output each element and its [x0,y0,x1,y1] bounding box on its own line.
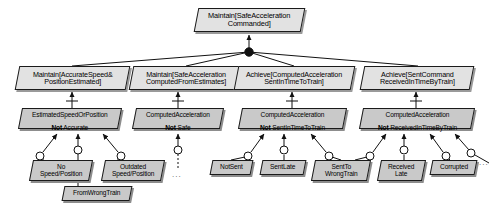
goal-node-command-received-in-time[interactable]: Achieve[SentCommand ReceivedInTimeByTrai… [360,66,475,90]
goal-node-safe-acceleration-computed[interactable]: Maintain[SafeAcceleration ComputedFromEs… [129,66,245,90]
refine-node-e2-o4 [467,149,475,157]
ellipsis-right: ... [479,158,489,167]
refine-link-l1-o1 [43,134,57,152]
obstacle-node-1-label: EstimatedSpeedOrPosition Not Accurate [32,105,108,132]
obstacle-node-3-label: ComputedAcceleration Not SentInTimeToTra… [260,105,325,132]
obstacle-node-4-line1: ComputedAcceleration [385,111,449,118]
goal-node-root[interactable]: Maintain[SafeAcceleration Commanded] [194,8,306,32]
goal-node-accurate-speed-position[interactable]: Maintain[AccurateSpeed& PositionEstimate… [15,66,131,90]
obstacle-node-4-label: ComputedAcceleration Not ReceivedInTimeB… [378,105,457,132]
obstacle-node-3-neg: Not [260,124,271,131]
refine-node-l6-o4 [366,152,374,160]
goal-node-root-label: Maintain[SafeAcceleration Commanded] [208,12,290,27]
link-and-to-goal-1 [72,52,249,66]
refine-link-l8-o4 [430,134,443,152]
goal-node-3-label: Achieve[ComputedAcceleration SentInTimeT… [246,71,342,86]
leaf-node-sent-to-wrong-train[interactable]: SentTo WrongTrain [311,160,371,181]
leaf-node-sent-late[interactable]: SentLate [260,160,307,175]
goal-node-2-label: Maintain[SafeAcceleration ComputedFromEs… [146,71,226,86]
refine-node-l1-o1 [36,152,44,160]
leaf-node-8-label: Corrupted [440,164,468,171]
leaf-node-from-wrong-train[interactable]: FromWrongTrain [62,186,133,201]
obstacle-node-3-rest: SentInTimeToTrain [271,124,325,131]
refine-node-l2-o1 [74,146,82,154]
refine-link-l4-o3 [251,134,264,152]
diagram-canvas: Maintain[SafeAcceleration Commanded] Mai… [0,0,495,218]
leaf-node-4-label: NotSent [220,164,243,171]
refine-link-e2-o4 [455,134,469,150]
obstacle-node-2-label: ComputedAcceleration Not Safe [146,105,210,132]
obstacle-node-estimate-not-accurate[interactable]: EstimatedSpeedOrPosition Not Accurate [18,108,122,129]
refine-node-e1-o2 [174,146,182,154]
obstacle-node-1-rest: Accurate [62,124,88,131]
refine-link-l6-o4 [373,134,386,152]
and-refinement-node [245,48,253,56]
obstacle-node-4-neg: Not [378,124,389,131]
leaf-node-no-speed-position[interactable]: No Speed/Position [29,160,93,181]
obstacle-node-3-line1: ComputedAcceleration [261,111,325,118]
obstacle-node-2-rest: Safe [176,124,191,131]
obstacle-node-1-neg: Not [52,124,63,131]
obstacle-node-acceleration-not-safe[interactable]: ComputedAcceleration Not Safe [132,108,224,129]
obstacle-node-2-line1: ComputedAcceleration [146,111,210,118]
leaf-node-not-sent[interactable]: NotSent [210,160,254,175]
leaf-node-5-label: SentLate [270,164,295,171]
leaf-node-2-label: FromWrongTrain [73,190,120,197]
goal-node-acceleration-sent-in-time[interactable]: Achieve[ComputedAcceleration SentInTimeT… [234,66,356,90]
refine-node-l8-o4 [442,152,450,160]
obstacle-node-1-line1: EstimatedSpeedOrPosition [32,111,108,118]
goal-node-4-label: Achieve[SentCommand ReceivedInTimeByTrai… [380,71,455,86]
refine-link-l3-o1 [103,134,118,152]
obstacle-node-not-received-in-time[interactable]: ComputedAcceleration Not ReceivedInTimeB… [359,108,475,129]
refine-node-l3-o1 [117,152,125,160]
goal-node-1-label: Maintain[AccurateSpeed& PositionEstimate… [33,71,113,86]
leaf-node-1-label: No Speed/Position [40,164,82,177]
leaf-node-6-label: SentTo WrongTrain [325,164,358,177]
leaf-node-7-label: Received Late [388,164,414,177]
leaf-node-corrupted[interactable]: Corrupted [430,160,478,175]
refine-node-l6-o3 [325,152,333,160]
obstacle-node-4-rest: ReceivedInTimeByTrain [388,124,456,131]
link-and-to-goal-4 [249,52,418,66]
obstacle-node-not-sent-in-time[interactable]: ComputedAcceleration Not SentInTimeToTra… [238,108,347,129]
leaf-node-3-label: Outdated Speed/Position [112,164,154,177]
ellipsis-middle: ... [172,170,182,179]
leaf-node-outdated-speed-position[interactable]: Outdated Speed/Position [101,160,165,181]
refine-node-l7-o4 [400,146,408,154]
refine-node-l5-o3 [280,146,288,154]
obstacle-node-2-neg: Not [165,124,176,131]
refine-node-l4-o3 [244,152,252,160]
leaf-node-received-late[interactable]: Received Late [377,160,426,181]
refine-link-l6-o3 [311,134,326,152]
